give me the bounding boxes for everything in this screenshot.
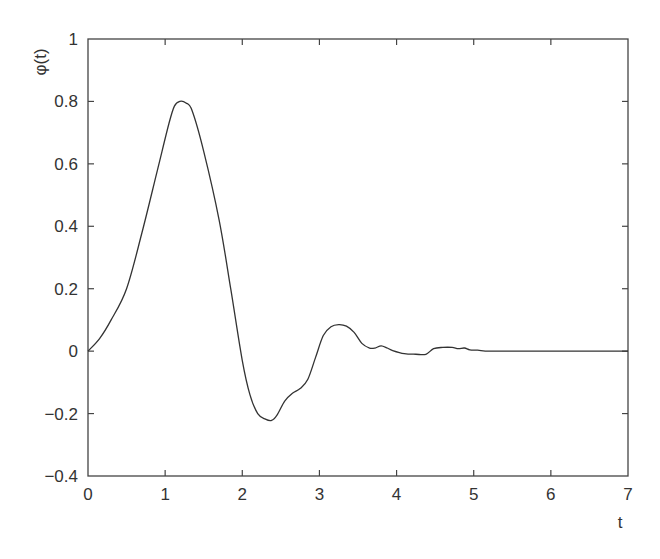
y-axis-label: φ(t) xyxy=(31,48,50,75)
x-tick-label: 0 xyxy=(83,485,92,504)
y-tick-label: 0 xyxy=(69,342,78,361)
x-tick-label: 2 xyxy=(238,485,247,504)
x-tick-label: 6 xyxy=(546,485,555,504)
x-tick-label: 7 xyxy=(623,485,632,504)
y-tick-label: 0.2 xyxy=(54,280,78,299)
y-axis-ticks: −0.4−0.200.20.40.60.81 xyxy=(44,30,628,486)
x-tick-label: 3 xyxy=(315,485,324,504)
y-tick-label: 0.6 xyxy=(54,155,78,174)
x-axis-ticks: 01234567 xyxy=(83,39,632,504)
x-tick-label: 1 xyxy=(160,485,169,504)
y-tick-label: 0.8 xyxy=(54,92,78,111)
plot-frame xyxy=(88,39,628,476)
y-tick-label: −0.2 xyxy=(44,405,78,424)
y-tick-label: −0.4 xyxy=(44,467,78,486)
x-axis-label: t xyxy=(618,513,623,532)
x-tick-label: 5 xyxy=(469,485,478,504)
y-tick-label: 1 xyxy=(69,30,78,49)
y-tick-label: 0.4 xyxy=(54,217,78,236)
x-tick-label: 4 xyxy=(392,485,401,504)
line-chart: 01234567 −0.4−0.200.20.40.60.81 t φ(t) xyxy=(0,0,660,559)
phi-curve xyxy=(88,101,628,420)
